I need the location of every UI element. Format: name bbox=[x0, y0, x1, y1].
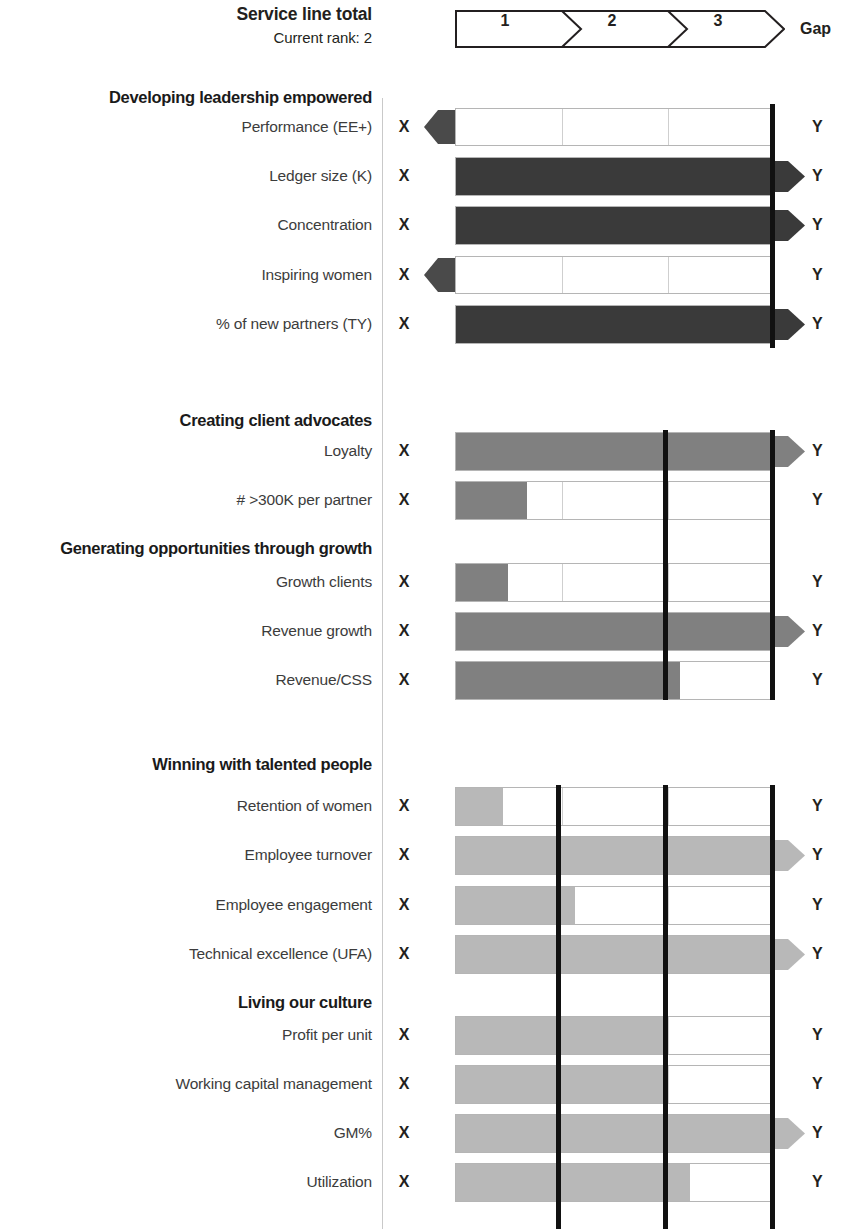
plot-left-edge bbox=[455, 1163, 456, 1202]
overflow-right-arrow-revenue-growth bbox=[774, 612, 805, 651]
plot-left-edge bbox=[455, 661, 456, 700]
gap-marker-revenue-css: Y bbox=[812, 671, 836, 689]
gap-marker-concentration: Y bbox=[812, 216, 836, 234]
x-marker-employee-turnover: X bbox=[392, 846, 416, 864]
bar-track-growth-clients bbox=[455, 563, 775, 602]
x-marker-retention-of-women: X bbox=[392, 797, 416, 815]
plot-left-edge bbox=[455, 886, 456, 925]
segment-number-2: 2 bbox=[562, 12, 662, 30]
bar-track-performance-ee bbox=[455, 108, 775, 146]
bar-track-employee-engagement bbox=[455, 886, 775, 925]
gap-marker-inspiring-women: Y bbox=[812, 266, 836, 284]
gap-column-header: Gap bbox=[800, 20, 856, 38]
segment-divider-1 bbox=[562, 482, 563, 519]
bar-track-300k-per-partner bbox=[455, 481, 775, 520]
bar-track-revenue-css bbox=[455, 661, 775, 700]
metric-label-inspiring-women: Inspiring women bbox=[0, 266, 372, 284]
gap-marker-revenue-growth: Y bbox=[812, 622, 836, 640]
gap-marker-working-capital-management: Y bbox=[812, 1075, 836, 1093]
x-marker-revenue-css: X bbox=[392, 671, 416, 689]
segment-divider-2 bbox=[668, 109, 669, 145]
overflow-right-arrow-gm bbox=[774, 1114, 805, 1153]
gap-marker-loyalty: Y bbox=[812, 442, 836, 460]
value-bar-utilization bbox=[455, 1164, 690, 1201]
segment-divider-2 bbox=[668, 887, 669, 924]
target-line-2 bbox=[663, 430, 668, 700]
label-column-divider bbox=[382, 98, 383, 1229]
segment-divider-1 bbox=[562, 109, 563, 145]
segment-divider-1 bbox=[562, 257, 563, 293]
gap-marker-employee-engagement: Y bbox=[812, 896, 836, 914]
plot-left-edge bbox=[455, 481, 456, 520]
plot-left-edge bbox=[455, 157, 456, 196]
plot-left-edge bbox=[455, 563, 456, 602]
x-marker-profit-per-unit: X bbox=[392, 1026, 416, 1044]
overflow-right-arrow-ledger-size-k bbox=[774, 157, 805, 196]
segment-divider-2 bbox=[668, 257, 669, 293]
gap-marker-performance-ee: Y bbox=[812, 118, 836, 136]
overflow-right-arrow-employee-turnover bbox=[774, 836, 805, 875]
x-marker-working-capital-management: X bbox=[392, 1075, 416, 1093]
metric-label-performance-ee: Performance (EE+) bbox=[0, 118, 372, 136]
value-bar-ledger-size-k bbox=[455, 158, 775, 195]
bar-track-ledger-size-k bbox=[455, 157, 775, 196]
x-marker-performance-ee: X bbox=[392, 118, 416, 136]
value-bar-profit-per-unit bbox=[455, 1017, 668, 1054]
bar-track-profit-per-unit bbox=[455, 1016, 775, 1055]
gap-marker-growth-clients: Y bbox=[812, 573, 836, 591]
metric-label-employee-engagement: Employee engagement bbox=[0, 896, 372, 914]
segment-number-3: 3 bbox=[668, 12, 768, 30]
gap-marker-ledger-size-k: Y bbox=[812, 167, 836, 185]
gap-marker-300k-per-partner: Y bbox=[812, 491, 836, 509]
metric-label-retention-of-women: Retention of women bbox=[0, 797, 372, 815]
group-heading-creating-client-advocates: Creating client advocates bbox=[0, 411, 372, 430]
value-bar-revenue-growth bbox=[455, 613, 775, 650]
overflow-right-arrow-concentration bbox=[774, 206, 805, 245]
gap-marker-profit-per-unit: Y bbox=[812, 1026, 836, 1044]
segment-divider-2 bbox=[668, 1017, 669, 1054]
segment-divider-2 bbox=[668, 788, 669, 825]
x-marker-inspiring-women: X bbox=[392, 266, 416, 284]
segment-divider-1 bbox=[562, 564, 563, 601]
bar-track-working-capital-management bbox=[455, 1065, 775, 1104]
metric-label-concentration: Concentration bbox=[0, 216, 372, 234]
x-marker-gm: X bbox=[392, 1124, 416, 1142]
metric-label-technical-excellence-ufa: Technical excellence (UFA) bbox=[0, 945, 372, 963]
plot-left-edge bbox=[455, 206, 456, 245]
bar-track-of-new-partners-ty bbox=[455, 305, 775, 344]
page-title: Service line total bbox=[0, 4, 372, 25]
target-line-1 bbox=[770, 104, 775, 348]
x-marker-employee-engagement: X bbox=[392, 896, 416, 914]
group-heading-generating-opportunities-through-growth: Generating opportunities through growth bbox=[0, 539, 372, 558]
metric-label-working-capital-management: Working capital management bbox=[0, 1075, 372, 1093]
metric-label-employee-turnover: Employee turnover bbox=[0, 846, 372, 864]
plot-left-edge bbox=[455, 612, 456, 651]
segment-divider-2 bbox=[668, 482, 669, 519]
x-marker-concentration: X bbox=[392, 216, 416, 234]
plot-left-edge bbox=[455, 935, 456, 974]
gap-marker-of-new-partners-ty: Y bbox=[812, 315, 836, 333]
bar-track-concentration bbox=[455, 206, 775, 245]
gap-marker-retention-of-women: Y bbox=[812, 797, 836, 815]
metric-label-300k-per-partner: # >300K per partner bbox=[0, 491, 372, 509]
metric-label-growth-clients: Growth clients bbox=[0, 573, 372, 591]
plot-left-edge bbox=[455, 787, 456, 826]
overflow-right-arrow-of-new-partners-ty bbox=[774, 305, 805, 344]
x-marker-utilization: X bbox=[392, 1173, 416, 1191]
bar-track-revenue-growth bbox=[455, 612, 775, 651]
bar-track-inspiring-women bbox=[455, 256, 775, 294]
metric-label-revenue-css: Revenue/CSS bbox=[0, 671, 372, 689]
x-marker-of-new-partners-ty: X bbox=[392, 315, 416, 333]
overflow-right-arrow-technical-excellence-ufa bbox=[774, 935, 805, 974]
plot-left-edge bbox=[455, 1065, 456, 1104]
value-bar-revenue-css bbox=[455, 662, 680, 699]
title-block: Service line total Current rank: 2 bbox=[0, 4, 372, 48]
bar-track-gm bbox=[455, 1114, 775, 1153]
segment-number-1: 1 bbox=[455, 12, 555, 30]
value-bar-retention-of-women bbox=[455, 788, 503, 825]
target-line-4 bbox=[556, 785, 561, 1229]
overflow-right-arrow-loyalty bbox=[774, 432, 805, 471]
underflow-left-arrow-performance-ee bbox=[424, 108, 455, 146]
gap-marker-technical-excellence-ufa: Y bbox=[812, 945, 836, 963]
chart-header: Service line total Current rank: 2 1 2 3… bbox=[0, 0, 856, 88]
